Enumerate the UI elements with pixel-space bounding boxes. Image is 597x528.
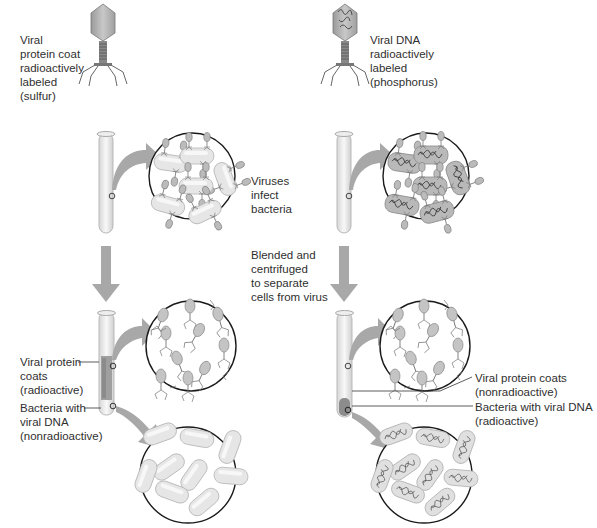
magnified-bacteria-right <box>369 421 479 523</box>
test-tube-centrifuged-right <box>336 311 354 418</box>
test-tube-infection-left <box>97 132 115 234</box>
magnified-bacteria-left <box>133 421 249 523</box>
label-step-infect: Viruses infect bacteria <box>251 174 292 216</box>
label-pellet-left: Bacteria with viral DNA (nonradioactive) <box>20 401 102 443</box>
label-supernatant-left: Viral protein coats (radioactive) <box>20 355 83 397</box>
label-viral-dna-phosphorus: Viral DNA radioactively labeled (phospho… <box>370 33 438 89</box>
label-supernatant-right: Viral protein coats (nonradioactive) <box>475 371 567 399</box>
phage-phosphorus-labeled <box>321 4 369 86</box>
label-step-blend-centrifuge: Blended and centrifuged to separate cell… <box>251 248 328 304</box>
magnified-ghosts-right <box>380 299 470 402</box>
magnified-ghosts-left <box>146 299 236 402</box>
label-pellet-right: Bacteria with viral DNA (radioactive) <box>475 400 593 428</box>
test-tube-centrifuged-left <box>98 311 116 416</box>
phage-sulfur-labeled <box>79 4 127 86</box>
label-protein-coat-sulfur: Viral protein coat radioactively labeled… <box>20 33 84 103</box>
magnified-infection-left <box>146 133 253 240</box>
magnified-infection-right <box>381 132 486 240</box>
down-arrow-left <box>92 246 120 302</box>
down-arrow-right <box>330 246 358 302</box>
